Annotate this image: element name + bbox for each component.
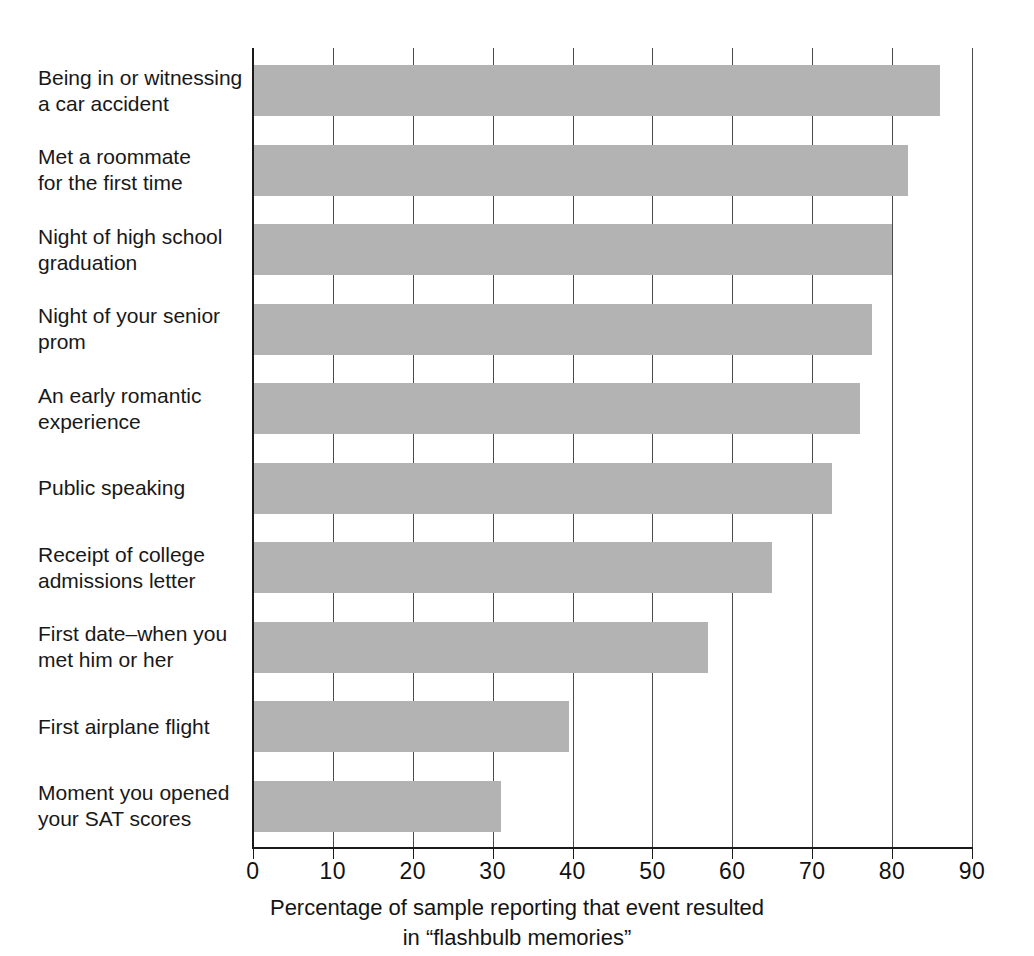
gridline — [972, 48, 973, 848]
category-label: An early romantic experience — [38, 383, 243, 435]
x-axis-tick-label: 10 — [320, 858, 347, 884]
category-label-text: Night of your senior prom — [38, 303, 243, 355]
flashbulb-memories-bar-chart: 0102030405060708090 Being in or witnessi… — [0, 0, 1034, 956]
bar — [253, 701, 569, 752]
x-axis-tick-label: 60 — [719, 858, 746, 884]
bar — [253, 542, 772, 593]
category-label: First date–when you met him or her — [38, 621, 243, 673]
bar — [253, 224, 892, 275]
bar — [253, 463, 832, 514]
x-axis-tick-label: 30 — [479, 858, 506, 884]
bar — [253, 65, 940, 116]
bar — [253, 145, 908, 196]
category-label: First airplane flight — [38, 714, 243, 740]
bar — [253, 383, 860, 434]
x-axis-tick-label: 90 — [959, 858, 986, 884]
category-label-text: Met a roommate for the first time — [38, 144, 243, 196]
x-axis-tick-label: 40 — [559, 858, 586, 884]
x-axis-tick-label: 20 — [399, 858, 426, 884]
category-label-text: Being in or witnessing a car accident — [38, 65, 243, 117]
category-label: Night of your senior prom — [38, 303, 243, 355]
category-label-text: Public speaking — [38, 475, 243, 501]
category-label: Being in or witnessing a car accident — [38, 65, 243, 117]
bar — [253, 304, 872, 355]
bar — [253, 622, 708, 673]
category-label-text: An early romantic experience — [38, 383, 243, 435]
category-label: Night of high school graduation — [38, 224, 243, 276]
category-label-text: First date–when you met him or her — [38, 621, 243, 673]
x-axis-title: Percentage of sample reporting that even… — [0, 893, 1034, 953]
category-label: Receipt of college admissions letter — [38, 542, 243, 594]
x-axis-line — [252, 847, 973, 849]
category-label: Public speaking — [38, 475, 243, 501]
bar — [253, 781, 501, 832]
category-label-text: First airplane flight — [38, 714, 243, 740]
category-label: Moment you opened your SAT scores — [38, 780, 243, 832]
x-axis-tick-label: 80 — [879, 858, 906, 884]
x-axis-tick-label: 50 — [639, 858, 666, 884]
x-axis-tick-label: 70 — [799, 858, 826, 884]
x-axis-tick-label: 0 — [246, 858, 259, 884]
category-label-text: Moment you opened your SAT scores — [38, 780, 243, 832]
category-label: Met a roommate for the first time — [38, 144, 243, 196]
category-label-text: Receipt of college admissions letter — [38, 542, 243, 594]
x-axis-title-text: Percentage of sample reporting that even… — [270, 895, 764, 950]
y-axis-line — [252, 48, 254, 849]
category-label-text: Night of high school graduation — [38, 224, 243, 276]
